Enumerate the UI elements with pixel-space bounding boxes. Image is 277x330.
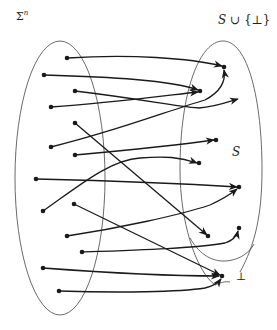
arrow xyxy=(43,268,219,276)
domain-point xyxy=(49,105,54,110)
domain-point xyxy=(49,145,54,150)
codomain-point xyxy=(220,274,225,279)
arrow xyxy=(44,75,198,90)
codomain-label: S ∪ {⊥} xyxy=(218,13,270,27)
domain-point xyxy=(57,289,62,294)
domain-point xyxy=(65,234,70,239)
domain-point xyxy=(80,250,85,255)
subset-s-boundary xyxy=(190,238,254,261)
exponent-n: n xyxy=(24,9,29,17)
domain-point xyxy=(73,89,78,94)
domain-ellipse xyxy=(15,41,105,315)
codomain-point xyxy=(214,138,219,143)
arrow xyxy=(74,204,220,275)
domain-point xyxy=(42,73,47,78)
set-s-symbol: S xyxy=(218,13,226,27)
arrow xyxy=(75,123,207,235)
domain-point xyxy=(73,121,78,126)
bottom-element-label: ⊥ xyxy=(236,270,246,283)
domain-point xyxy=(73,153,78,158)
sigma-symbol: Σ xyxy=(16,10,24,23)
codomain-point xyxy=(237,226,242,231)
union-bottom-text: ∪ {⊥} xyxy=(226,13,270,27)
codomain-point xyxy=(222,65,227,70)
arrow xyxy=(75,140,214,155)
domain-point xyxy=(72,202,77,207)
subset-s-label: S xyxy=(232,145,240,159)
codomain-point xyxy=(197,161,202,166)
codomain-outline xyxy=(180,41,262,285)
domain-point xyxy=(41,266,46,271)
arrow xyxy=(59,279,221,292)
domain-label: Σn xyxy=(16,9,28,23)
domain-point xyxy=(34,177,39,182)
domain-point xyxy=(65,56,70,61)
arrow xyxy=(75,91,238,108)
arrow xyxy=(36,179,237,187)
codomain-point xyxy=(206,234,211,239)
arrow xyxy=(67,56,222,66)
domain-point xyxy=(41,209,46,214)
codomain-point xyxy=(237,185,242,190)
codomain-point xyxy=(198,89,203,94)
arrow xyxy=(82,231,238,252)
domain-points xyxy=(34,56,85,294)
